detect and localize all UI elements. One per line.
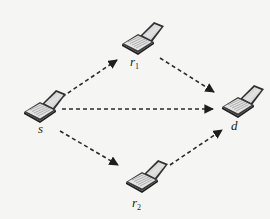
relay-network-diagram: s r1 d r2 [0, 0, 270, 219]
diagram-svg: s r1 d r2 [0, 0, 270, 219]
edge-r1-to-d [160, 58, 214, 92]
node-label-s: s [38, 121, 43, 136]
node-subscript-r1: 1 [135, 62, 139, 71]
node-r2: r2 [126, 160, 168, 212]
node-s: s [24, 90, 66, 136]
svg-text:r1: r1 [130, 54, 139, 71]
node-subscript-r2: 2 [137, 203, 141, 212]
edge-s-to-r2 [60, 131, 118, 165]
laptop-icon [122, 22, 164, 55]
node-label-d: d [231, 118, 238, 133]
laptop-icon [126, 160, 168, 193]
edges [60, 58, 222, 165]
svg-text:r2: r2 [132, 195, 141, 212]
edge-r2-to-d [170, 130, 222, 165]
laptop-icon [24, 90, 66, 123]
edge-s-to-r1 [62, 60, 117, 97]
node-d: d [222, 85, 264, 133]
node-r1: r1 [122, 22, 164, 71]
laptop-icon [222, 85, 264, 118]
